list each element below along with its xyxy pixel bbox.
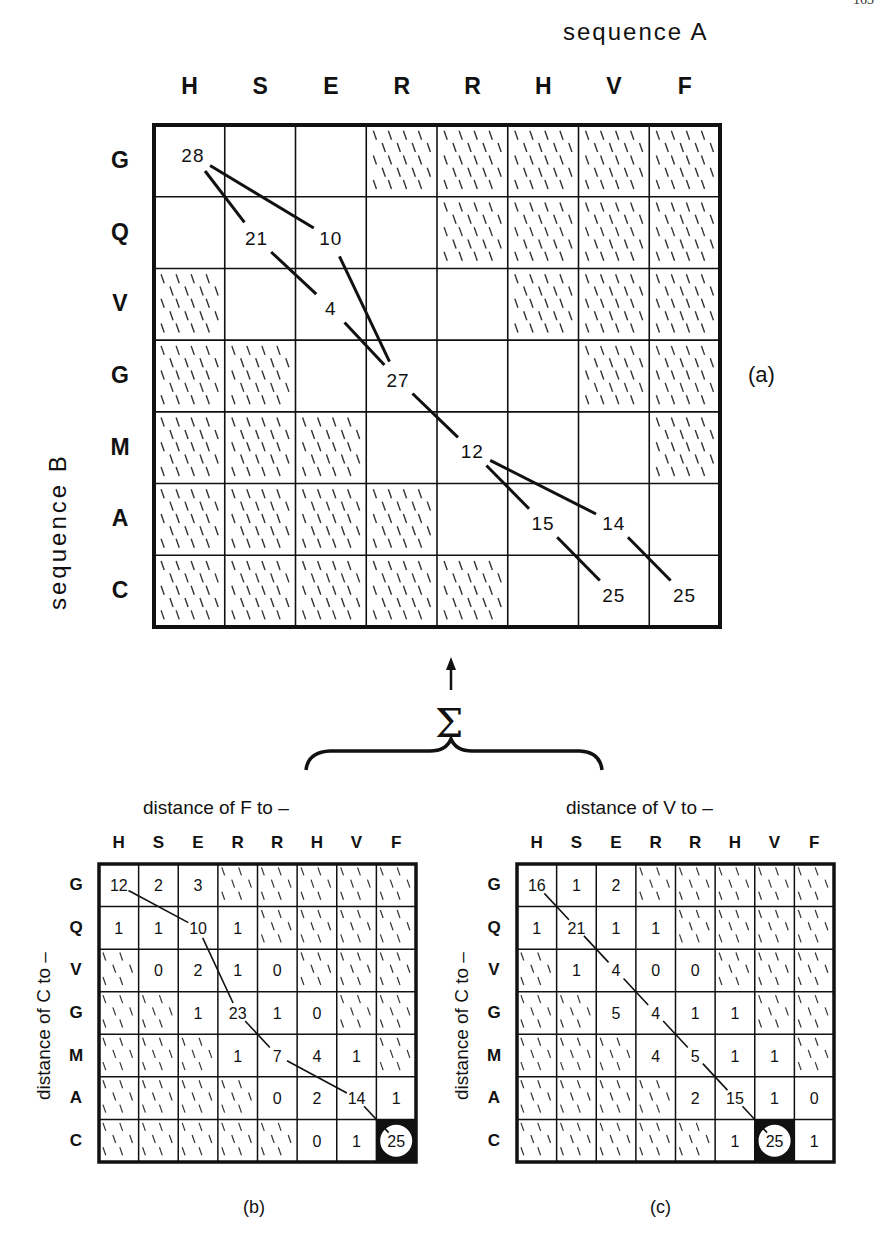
svg-text:25: 25 — [387, 1133, 405, 1150]
svg-text:1: 1 — [730, 1133, 739, 1150]
svg-text:1: 1 — [154, 920, 163, 937]
svg-text:21: 21 — [568, 920, 586, 937]
svg-text:2: 2 — [154, 877, 163, 894]
svg-text:4: 4 — [312, 1048, 321, 1065]
svg-text:0: 0 — [691, 962, 700, 979]
svg-text:15: 15 — [726, 1090, 744, 1107]
svg-text:1: 1 — [612, 920, 621, 937]
svg-text:1: 1 — [352, 1133, 361, 1150]
svg-text:1: 1 — [194, 1005, 203, 1022]
svg-text:0: 0 — [651, 962, 660, 979]
svg-text:0: 0 — [312, 1005, 321, 1022]
svg-text:4: 4 — [612, 962, 621, 979]
svg-text:10: 10 — [189, 920, 207, 937]
svg-text:5: 5 — [691, 1048, 700, 1065]
svg-text:1: 1 — [352, 1048, 361, 1065]
svg-text:3: 3 — [194, 877, 203, 894]
svg-text:2: 2 — [312, 1090, 321, 1107]
matrix-b: 1223111010210123101741021410125 — [99, 864, 416, 1162]
svg-text:2: 2 — [612, 877, 621, 894]
svg-text:0: 0 — [312, 1133, 321, 1150]
svg-text:14: 14 — [348, 1090, 366, 1107]
svg-text:2: 2 — [194, 962, 203, 979]
svg-text:12: 12 — [110, 877, 128, 894]
svg-text:23: 23 — [229, 1005, 247, 1022]
svg-text:5: 5 — [612, 1005, 621, 1022]
svg-text:0: 0 — [273, 962, 282, 979]
svg-text:1: 1 — [691, 1005, 700, 1022]
matrix-c: 161212111140054114511215101251 — [517, 864, 834, 1162]
svg-text:0: 0 — [154, 962, 163, 979]
svg-text:1: 1 — [273, 1005, 282, 1022]
svg-text:1: 1 — [810, 1133, 819, 1150]
svg-text:1: 1 — [572, 877, 581, 894]
subfigure-matrices: 1223111010210123101741021410125161212111… — [0, 0, 878, 1236]
svg-text:7: 7 — [273, 1048, 282, 1065]
svg-text:1: 1 — [233, 920, 242, 937]
svg-text:25: 25 — [766, 1133, 784, 1150]
svg-text:1: 1 — [532, 920, 541, 937]
svg-text:1: 1 — [770, 1048, 779, 1065]
svg-text:1: 1 — [770, 1090, 779, 1107]
svg-text:1: 1 — [651, 920, 660, 937]
svg-text:0: 0 — [273, 1090, 282, 1107]
svg-text:1: 1 — [114, 920, 123, 937]
svg-text:1: 1 — [233, 1048, 242, 1065]
svg-text:4: 4 — [651, 1048, 660, 1065]
figure-c-label: (c) — [650, 1197, 671, 1218]
svg-text:1: 1 — [392, 1090, 401, 1107]
svg-text:4: 4 — [651, 1005, 660, 1022]
svg-text:1: 1 — [233, 962, 242, 979]
svg-text:2: 2 — [691, 1090, 700, 1107]
svg-text:1: 1 — [572, 962, 581, 979]
svg-text:16: 16 — [528, 877, 546, 894]
figure-b-label: (b) — [243, 1197, 265, 1218]
svg-text:0: 0 — [810, 1090, 819, 1107]
svg-text:1: 1 — [730, 1048, 739, 1065]
svg-text:1: 1 — [730, 1005, 739, 1022]
